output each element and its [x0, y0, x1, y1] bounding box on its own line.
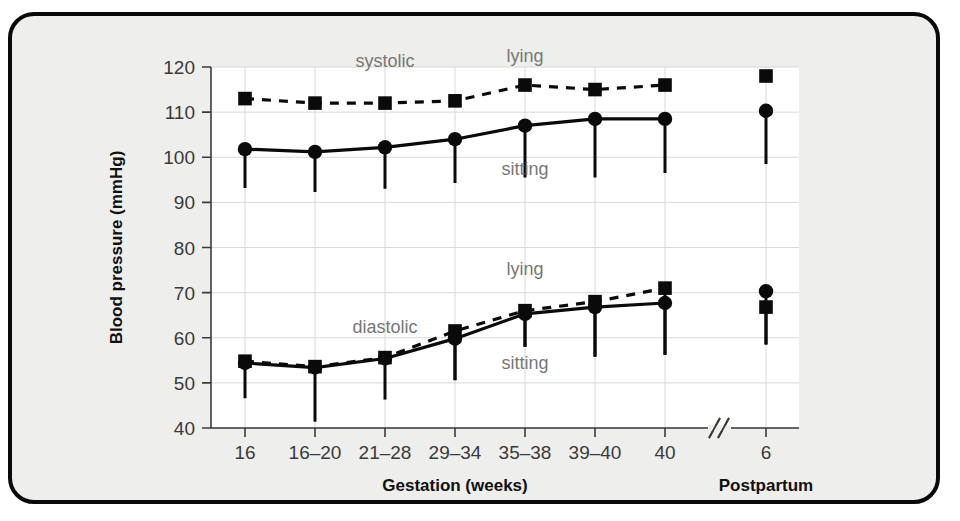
marker-diastolic-lying: [759, 300, 773, 314]
marker-systolic-lying: [238, 92, 252, 106]
y-axis-title: Blood pressure (mmHg): [107, 151, 126, 345]
marker-systolic-lying: [378, 96, 392, 110]
annotation-sitting: sitting: [501, 159, 548, 179]
blood-pressure-chart: 4050607080901001101201616–2021–2829–3435…: [8, 12, 940, 504]
y-tick-label: 80: [174, 238, 195, 259]
y-tick-label: 90: [174, 192, 195, 213]
marker-diastolic-sitting: [759, 284, 773, 298]
marker-systolic-sitting: [448, 132, 462, 146]
marker-systolic-sitting: [759, 104, 773, 118]
x-tick-label: 21–28: [359, 442, 412, 463]
x-tick-label: 39–40: [569, 442, 622, 463]
marker-diastolic-sitting: [588, 300, 602, 314]
x-tick-label: 16: [234, 442, 255, 463]
x-tick-label: 29–34: [429, 442, 482, 463]
marker-diastolic-sitting: [658, 296, 672, 310]
x-axis-title-postpartum: Postpartum: [719, 476, 813, 495]
marker-systolic-sitting: [378, 140, 392, 154]
annotation-lying: lying: [506, 259, 543, 279]
annotation-sitting: sitting: [501, 353, 548, 373]
marker-systolic-lying: [518, 78, 532, 92]
marker-systolic-sitting: [518, 118, 532, 132]
x-tick-label: 6: [761, 442, 772, 463]
annotation-diastolic: diastolic: [352, 317, 417, 337]
axis-break-gap: [708, 425, 731, 431]
y-tick-label: 50: [174, 373, 195, 394]
marker-diastolic-sitting: [238, 356, 252, 370]
marker-systolic-lying: [448, 94, 462, 108]
marker-diastolic-sitting: [308, 360, 322, 374]
marker-systolic-lying: [759, 69, 773, 83]
x-tick-label: 35–38: [499, 442, 552, 463]
marker-systolic-sitting: [588, 112, 602, 126]
x-axis-title: Gestation (weeks): [382, 476, 528, 495]
y-tick-label: 70: [174, 283, 195, 304]
marker-diastolic-lying: [658, 281, 672, 295]
marker-systolic-lying: [658, 78, 672, 92]
marker-diastolic-sitting: [378, 351, 392, 365]
x-tick-label: 16–20: [289, 442, 342, 463]
y-tick-label: 100: [163, 147, 195, 168]
marker-systolic-lying: [588, 83, 602, 97]
y-tick-label: 110: [165, 102, 195, 123]
marker-systolic-sitting: [238, 142, 252, 156]
y-tick-label: 40: [174, 418, 195, 439]
y-tick-label: 60: [174, 328, 195, 349]
marker-systolic-lying: [308, 96, 322, 110]
figure-frame: 4050607080901001101201616–2021–2829–3435…: [8, 12, 940, 504]
annotation-systolic: systolic: [355, 51, 414, 71]
marker-systolic-sitting: [308, 145, 322, 159]
x-tick-label: 40: [654, 442, 675, 463]
annotation-lying: lying: [506, 46, 543, 66]
marker-diastolic-sitting: [448, 331, 462, 345]
marker-systolic-sitting: [658, 112, 672, 126]
marker-diastolic-sitting: [518, 307, 532, 321]
y-tick-label: 120: [163, 57, 195, 78]
